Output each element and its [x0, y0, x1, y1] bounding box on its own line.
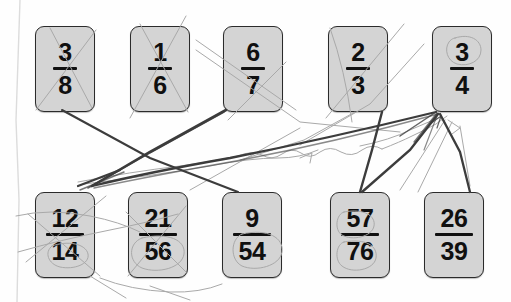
denominator: 76	[347, 239, 374, 264]
denominator: 3	[351, 73, 364, 98]
worksheet-scan: 3 8 1 6 6 7 2 3	[0, 0, 511, 302]
fraction-bar	[139, 233, 177, 236]
card-3-8[interactable]: 3 8	[35, 26, 95, 112]
fraction-bar	[435, 233, 473, 236]
numerator: 26	[441, 206, 468, 231]
card-12-14[interactable]: 12 14	[35, 192, 95, 278]
card-3-4[interactable]: 3 4	[432, 26, 492, 112]
card-1-6[interactable]: 1 6	[130, 26, 190, 112]
denominator: 4	[455, 73, 468, 98]
fraction-bar	[233, 233, 271, 236]
denominator: 6	[153, 73, 166, 98]
denominator: 54	[239, 239, 266, 264]
fraction-bar	[148, 67, 172, 70]
fraction-bar	[450, 67, 474, 70]
numerator: 2	[351, 40, 364, 65]
card-9-54[interactable]: 9 54	[222, 192, 282, 278]
fraction-bar	[241, 67, 265, 70]
numerator: 9	[245, 206, 258, 231]
card-layer: 3 8 1 6 6 7 2 3	[0, 0, 511, 302]
fraction-bar	[53, 67, 77, 70]
fraction-bar	[346, 67, 370, 70]
fraction-bar	[46, 233, 84, 236]
numerator: 6	[246, 40, 259, 65]
fraction-3-4: 3 4	[450, 40, 474, 98]
fraction-6-7: 6 7	[241, 40, 265, 98]
fraction-26-39: 26 39	[435, 206, 473, 264]
card-6-7[interactable]: 6 7	[223, 26, 283, 112]
fraction-2-3: 2 3	[346, 40, 370, 98]
denominator: 56	[145, 239, 172, 264]
numerator: 1	[153, 40, 166, 65]
numerator: 3	[455, 40, 468, 65]
fraction-1-6: 1 6	[148, 40, 172, 98]
numerator: 12	[52, 206, 79, 231]
card-2-3[interactable]: 2 3	[328, 26, 388, 112]
fraction-bar	[341, 233, 379, 236]
fraction-3-8: 3 8	[53, 40, 77, 98]
card-57-76[interactable]: 57 76	[330, 192, 390, 278]
fraction-12-14: 12 14	[46, 206, 84, 264]
fraction-21-56: 21 56	[139, 206, 177, 264]
numerator: 3	[58, 40, 71, 65]
numerator: 21	[145, 206, 172, 231]
denominator: 39	[441, 239, 468, 264]
card-26-39[interactable]: 26 39	[424, 192, 484, 278]
fraction-9-54: 9 54	[233, 206, 271, 264]
denominator: 7	[246, 73, 259, 98]
card-21-56[interactable]: 21 56	[128, 192, 188, 278]
numerator: 57	[347, 206, 374, 231]
fraction-57-76: 57 76	[341, 206, 379, 264]
denominator: 14	[52, 239, 79, 264]
denominator: 8	[58, 73, 71, 98]
